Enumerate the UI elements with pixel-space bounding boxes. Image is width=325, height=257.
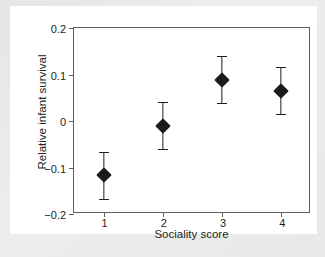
y-tick-label: 0.1 <box>51 70 66 81</box>
x-tick-0: 1 <box>104 212 105 217</box>
x-tick-3: 4 <box>281 212 282 217</box>
error-bar-cap-upper <box>276 67 286 68</box>
y-tick-label: 0 <box>60 117 66 128</box>
error-bar-cap-lower <box>158 149 168 150</box>
y-tick-2: 0 <box>69 121 74 122</box>
diamond-marker-icon <box>214 72 230 88</box>
y-tick-3: −0.1 <box>69 168 74 169</box>
diamond-marker-icon <box>155 118 171 134</box>
y-tick-4: −0.2 <box>69 214 74 215</box>
x-tick-1: 2 <box>163 212 164 217</box>
error-bar-cap-lower <box>99 199 109 200</box>
error-bar-cap-upper <box>99 152 109 153</box>
x-tick-2: 3 <box>222 212 223 217</box>
y-tick-label: −0.2 <box>44 210 66 221</box>
y-tick-1: 0.1 <box>69 75 74 76</box>
diamond-marker-icon <box>274 83 290 99</box>
figure-root: 0.20.10−0.1−0.2 1234 Sociality score Rel… <box>0 0 325 257</box>
y-tick-0: 0.2 <box>69 28 74 29</box>
y-tick-label: 0.2 <box>51 24 66 35</box>
error-bar-cap-lower <box>276 114 286 115</box>
error-bar-cap-lower <box>217 103 227 104</box>
y-axis-title: Relative infant survival <box>36 19 48 205</box>
figure-canvas: 0.20.10−0.1−0.2 1234 Sociality score Rel… <box>10 6 317 234</box>
diamond-marker-icon <box>96 167 112 183</box>
plot-area: 0.20.10−0.1−0.2 1234 <box>73 27 310 213</box>
x-axis-title: Sociality score <box>73 228 310 240</box>
error-bar-cap-upper <box>217 56 227 57</box>
error-bar-cap-upper <box>158 102 168 103</box>
